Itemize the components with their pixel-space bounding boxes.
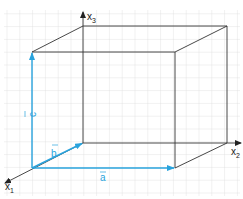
vector-a-label: a — [100, 172, 106, 183]
svg-text:a: a — [100, 172, 106, 183]
cuboid-diagram: a b c x3 x2 x1 — [0, 0, 243, 199]
svg-text:c: c — [27, 112, 38, 117]
svg-text:b: b — [51, 148, 57, 159]
